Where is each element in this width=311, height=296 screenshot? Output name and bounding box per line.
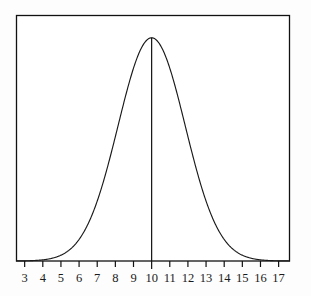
plot-frame	[17, 16, 290, 262]
bell-curve-figure: 34567891011121314151617	[0, 0, 311, 296]
plot-area	[0, 0, 311, 296]
